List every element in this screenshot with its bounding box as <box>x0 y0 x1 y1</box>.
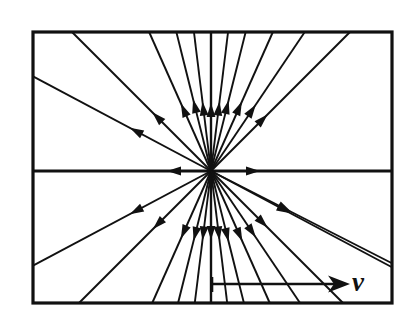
figure-background <box>0 0 411 327</box>
velocity-label: v <box>352 269 364 296</box>
vector-field-diagram <box>0 0 411 327</box>
figure-canvas: v <box>0 0 411 327</box>
